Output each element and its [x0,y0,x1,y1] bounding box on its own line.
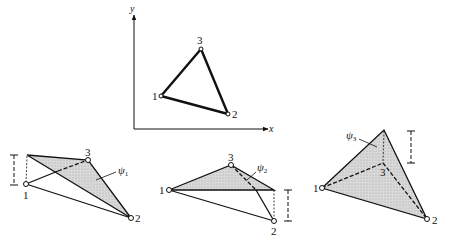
shape-function-psi2-panel: 1 2 3 ψ2 [159,151,292,237]
node-1-marker [167,188,172,193]
x-axis-label: x [268,123,274,134]
node-3-marker [86,158,91,163]
node-1-marker [159,94,163,98]
node-2-label: 2 [135,212,141,224]
node-2-marker [129,216,134,221]
node-2-marker [226,112,230,116]
psi3-label: ψ3 [346,129,357,143]
element-in-xy-plane: y x 1 2 3 [129,3,274,134]
node-2-label: 2 [271,225,277,237]
vertical-projection [26,156,27,184]
node-3-label: 3 [228,151,234,163]
node-3-marker [229,163,234,168]
node-3-label: 3 [380,166,386,178]
psi1-label: ψ1 [118,164,129,178]
node-3-label: 3 [85,146,91,158]
edge-1-3-solid [26,171,58,184]
node-1-label: 1 [23,189,29,201]
node-1-marker [320,186,325,191]
psi2-label: ψ2 [257,161,268,175]
node-1-label: 1 [152,90,158,102]
node-1-marker [24,182,29,187]
node-3-marker [199,47,203,51]
node-1-label: 1 [313,182,319,194]
psi1-surface [27,155,131,218]
shape-function-psi1-panel: 1 2 3 ψ1 [10,146,141,224]
node-2-label: 2 [232,108,238,120]
node-1-label: 1 [159,184,165,196]
node-2-label: 2 [432,214,438,226]
triangle-element [161,49,228,114]
y-axis-label: y [129,3,135,14]
node-2-marker [272,219,277,224]
linear-triangle-shape-functions-diagram: y x 1 2 3 1 2 3 ψ1 [0,0,454,251]
shape-function-psi3-panel: 1 2 3 ψ3 [313,129,438,226]
node-3-label: 3 [197,34,203,46]
node-2-marker [425,217,430,222]
